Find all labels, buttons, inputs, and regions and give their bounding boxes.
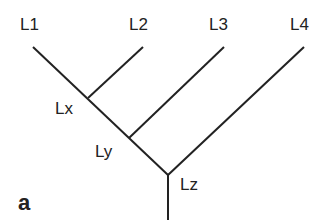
node-label-ly: Ly (95, 143, 112, 160)
leaf-label-l4: L4 (290, 16, 309, 33)
leaf-label-l3: L3 (209, 16, 228, 33)
leaf-label-l2: L2 (129, 16, 148, 33)
node-label-lx: Lx (55, 100, 73, 117)
panel-label: a (18, 192, 30, 214)
branch-l2-to-lx (88, 47, 143, 98)
tree-diagram (0, 0, 328, 224)
node-label-lz: Lz (180, 176, 198, 193)
branch-l4-to-lz (168, 47, 304, 175)
branch-l3-to-ly (129, 47, 224, 138)
leaf-label-l1: L1 (20, 16, 39, 33)
